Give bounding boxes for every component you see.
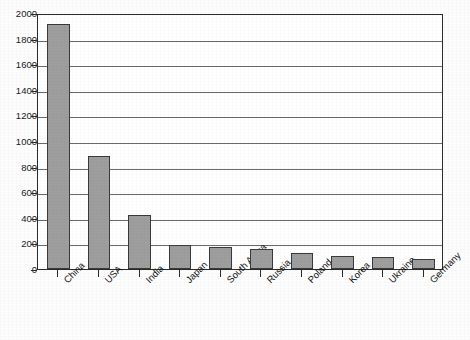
plot-area: [37, 14, 443, 270]
bar: [88, 156, 111, 269]
x-tick-label: Germany: [428, 278, 435, 285]
x-tick-mark: [382, 270, 383, 277]
y-axis: 0200400600800100012001400160018002000: [0, 14, 37, 270]
x-tick-mark: [260, 270, 261, 277]
x-tick-label: Ukraine: [387, 278, 394, 285]
bar-series: [38, 15, 442, 269]
bar: [128, 215, 151, 269]
x-tick-mark: [423, 270, 424, 277]
x-tick-mark: [57, 270, 58, 277]
x-tick-label: Poland: [306, 278, 313, 285]
x-tick-mark: [220, 270, 221, 277]
x-tick-label: China: [62, 278, 69, 285]
x-tick-mark: [342, 270, 343, 277]
x-tick-label: Russia: [265, 278, 272, 285]
x-tick-mark: [98, 270, 99, 277]
chart-figure: 0200400600800100012001400160018002000 Ch…: [0, 0, 470, 340]
x-tick-mark: [179, 270, 180, 277]
bar: [331, 256, 354, 269]
x-tick-label: Japan: [184, 278, 191, 285]
x-tick-label: Korea: [347, 278, 354, 285]
x-tick-label: South Africa: [225, 278, 232, 285]
bar: [250, 249, 273, 269]
x-tick-label: USA: [103, 278, 110, 285]
bar: [291, 253, 314, 269]
bar: [372, 257, 395, 269]
x-tick-mark: [139, 270, 140, 277]
x-tick-label: India: [144, 278, 151, 285]
bar: [169, 245, 192, 269]
bar: [209, 247, 232, 269]
x-tick-mark: [301, 270, 302, 277]
bar: [412, 259, 435, 269]
bar: [47, 24, 70, 269]
x-axis-labels: ChinaUSAIndiaJapanSouth AfricaRussiaPola…: [37, 278, 443, 340]
